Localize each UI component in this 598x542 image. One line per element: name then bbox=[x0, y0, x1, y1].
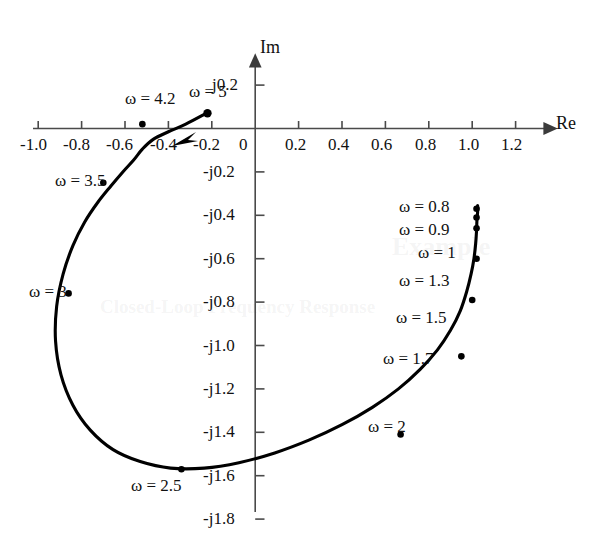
data-point-marker bbox=[473, 214, 480, 221]
tick-label-re--0.6: -0.6 bbox=[106, 136, 133, 153]
data-point-marker bbox=[139, 121, 146, 128]
tick-label-im--j1.4: -j1.4 bbox=[203, 423, 235, 440]
annotation-w-5: ω = 5 bbox=[189, 83, 227, 100]
tick-label-im--j1.6: -j1.6 bbox=[203, 467, 235, 484]
nyquist-plot-svg bbox=[0, 0, 598, 542]
tick-label-re-1.0: 1.0 bbox=[458, 136, 479, 153]
tick-label-im--j1.0: -j1.0 bbox=[203, 337, 235, 354]
nyquist-curve bbox=[55, 113, 477, 469]
tick-label-re--1.0: -1.0 bbox=[20, 136, 47, 153]
annotation-w-1-5: ω = 1.5 bbox=[396, 309, 447, 326]
annotation-w-2: ω = 2 bbox=[368, 418, 406, 435]
annotation-w-1-7: ω = 1.7 bbox=[383, 350, 434, 367]
tick-label-re-0.4: 0.4 bbox=[328, 136, 349, 153]
tick-label-re-0.2: 0.2 bbox=[285, 136, 306, 153]
tick-label-im--j0.8: -j0.8 bbox=[203, 293, 235, 310]
data-point-marker bbox=[473, 205, 480, 212]
annotation-w-3-5: ω = 3.5 bbox=[55, 172, 106, 189]
tick-label-re-0.6: 0.6 bbox=[371, 136, 392, 153]
data-point-markers bbox=[65, 109, 480, 472]
annotation-w-0-8: ω = 0.8 bbox=[399, 198, 450, 215]
axis-label-im: Im bbox=[260, 38, 280, 56]
real-axis bbox=[33, 121, 545, 129]
data-point-marker bbox=[203, 109, 211, 117]
tick-label-re--0.8: -0.8 bbox=[63, 136, 90, 153]
tick-label-im--j1.8: -j1.8 bbox=[203, 510, 235, 527]
data-point-marker bbox=[178, 466, 185, 473]
tick-label-im--j0.6: -j0.6 bbox=[203, 250, 235, 267]
annotation-w-1-3: ω = 1.3 bbox=[399, 272, 450, 289]
data-point-marker bbox=[473, 255, 480, 262]
tick-label-re--0.2: -0.2 bbox=[193, 136, 220, 153]
data-point-marker bbox=[458, 353, 465, 360]
data-point-marker bbox=[469, 297, 476, 304]
annotation-w-0-9: ω = 0.9 bbox=[399, 221, 450, 238]
tick-label-im--j1.2: -j1.2 bbox=[203, 380, 235, 397]
annotation-w-1: ω = 1 bbox=[418, 244, 456, 261]
tick-label-re-1.2: 1.2 bbox=[501, 136, 522, 153]
data-point-marker bbox=[473, 225, 480, 232]
tick-label-re-0.8: 0.8 bbox=[415, 136, 436, 153]
figure-canvas: Example Closed-Loop Frequency Response bbox=[0, 0, 598, 542]
tick-label-re-0: 0 bbox=[239, 136, 248, 153]
tick-label-im--j0.4: -j0.4 bbox=[203, 206, 235, 223]
axis-label-re: Re bbox=[556, 114, 576, 132]
annotation-w-3: ω = 3 bbox=[29, 283, 67, 300]
tick-label-re--0.4: -0.4 bbox=[150, 136, 177, 153]
annotation-w-2-5: ω = 2.5 bbox=[131, 477, 182, 494]
tick-label-im--j0.2: -j0.2 bbox=[203, 163, 235, 180]
imaginary-axis bbox=[255, 66, 264, 519]
annotation-w-4-2: ω = 4.2 bbox=[125, 90, 176, 107]
